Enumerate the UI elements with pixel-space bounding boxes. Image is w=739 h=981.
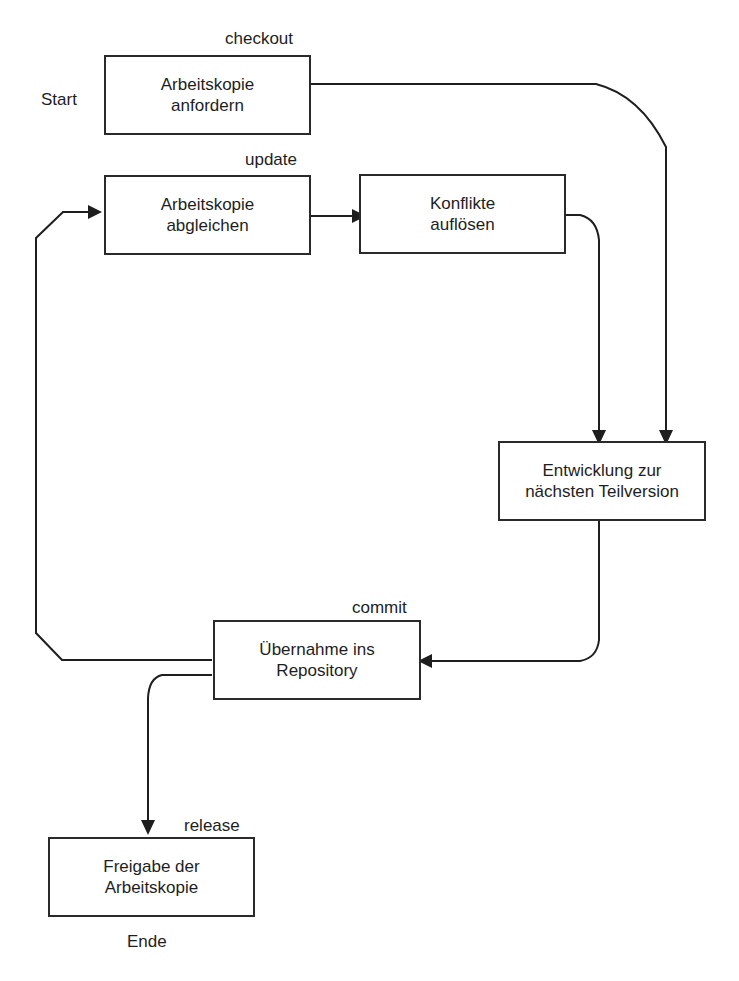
node-text: Arbeitskopie [103, 877, 199, 898]
arrowhead-icon [88, 205, 102, 219]
start-label: Start [41, 90, 77, 110]
node-text: Arbeitskopie [161, 194, 255, 215]
edge-develop-to-commit [432, 520, 599, 661]
node-text: abgleichen [161, 215, 255, 236]
command-label-release: release [184, 816, 240, 836]
node-develop: Entwicklung zur nächsten Teilversion [498, 441, 706, 521]
node-text: Entwicklung zur [525, 460, 679, 481]
edge-commit-to-update [36, 212, 212, 660]
node-release: Freigabe der Arbeitskopie [48, 837, 255, 917]
node-checkout: Arbeitskopie anfordern [104, 55, 311, 135]
edge-commit-to-release [148, 675, 212, 820]
node-text: Übernahme ins [259, 639, 374, 660]
command-label-commit: commit [352, 598, 407, 618]
node-text: Konflikte [430, 193, 495, 214]
node-resolve: Konflikte auflösen [359, 174, 566, 254]
end-label: Ende [127, 932, 167, 952]
node-commit: Übernahme ins Repository [213, 620, 421, 700]
node-text: anfordern [161, 95, 255, 116]
node-text: Arbeitskopie [161, 74, 255, 95]
edge-checkout-to-develop [310, 84, 666, 430]
edge-resolve-to-develop [565, 215, 599, 430]
node-text: nächsten Teilversion [525, 481, 679, 502]
node-text: Repository [259, 660, 374, 681]
node-text: auflösen [430, 214, 495, 235]
node-text: Freigabe der [103, 856, 199, 877]
node-update: Arbeitskopie abgleichen [104, 175, 311, 255]
command-label-update: update [245, 150, 297, 170]
arrowhead-icon [141, 820, 155, 835]
command-label-checkout: checkout [225, 29, 293, 49]
